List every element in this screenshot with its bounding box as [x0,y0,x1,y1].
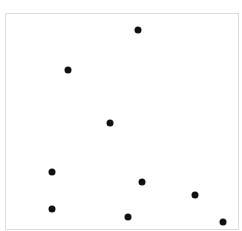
data-point [65,67,72,74]
data-point [139,179,146,186]
data-point [220,219,227,226]
data-point [49,169,56,176]
data-point [192,192,199,199]
data-point [107,120,114,127]
data-point [49,206,56,213]
scatter-plot-area [5,13,239,230]
data-point [125,214,132,221]
data-point [135,27,142,34]
